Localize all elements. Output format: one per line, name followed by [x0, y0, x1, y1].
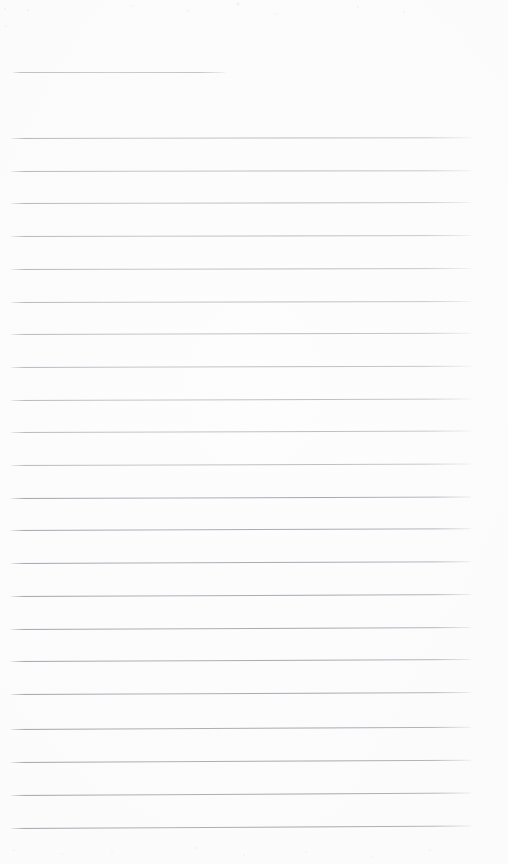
body-rule: [11, 137, 471, 139]
title-rule: [13, 72, 225, 73]
body-rule: [11, 594, 471, 597]
body-rule: [11, 727, 471, 730]
body-rule: [11, 496, 471, 499]
body-rule: [11, 366, 471, 368]
body-rule: [11, 333, 471, 335]
body-rule: [11, 235, 471, 237]
body-rule: [11, 659, 471, 662]
body-rule: [11, 561, 471, 564]
scan-noise-bottom: [0, 830, 508, 864]
scan-noise-top: [0, 0, 508, 46]
body-rule: [11, 529, 471, 532]
body-rule: [11, 300, 471, 302]
body-rule: [11, 268, 471, 270]
body-rule: [11, 398, 471, 400]
scanned-page: [0, 0, 508, 864]
body-rule: [11, 793, 471, 796]
body-rule: [11, 431, 471, 433]
body-rule: [11, 826, 471, 829]
body-rule: [11, 627, 471, 630]
body-rule: [11, 692, 471, 695]
body-rule: [11, 760, 471, 763]
body-rule: [11, 202, 471, 204]
body-rule: [11, 170, 471, 172]
body-rule: [11, 463, 471, 466]
